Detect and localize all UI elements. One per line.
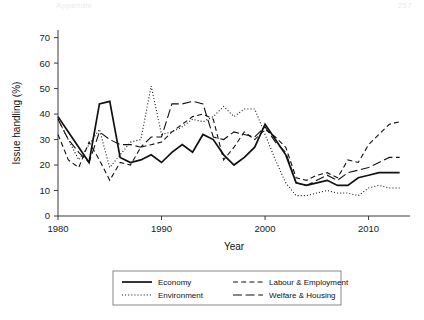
chart-legend: EconomyEnvironmentLabour & EmploymentWel… (113, 271, 349, 305)
y-tick-label: 30 (39, 134, 50, 145)
y-tick-label: 70 (39, 32, 50, 43)
legend-label: Labour & Employment (269, 278, 349, 287)
series-line-economy (58, 101, 400, 185)
series-line-labour-employment (58, 114, 400, 180)
line-chart: 0102030405060701980199020002010 YearIssu… (0, 0, 424, 320)
legend-label: Economy (158, 278, 191, 287)
legend-label: Welfare & Housing (269, 291, 336, 300)
x-tick-label: 2000 (254, 223, 275, 234)
x-tick-label: 2010 (358, 223, 379, 234)
x-tick-label: 1980 (47, 223, 68, 234)
x-tick-label: 1990 (151, 223, 172, 234)
series-group (58, 86, 400, 196)
series-line-welfare-housing (58, 101, 400, 185)
y-tick-label: 60 (39, 58, 50, 69)
y-tick-label: 10 (39, 185, 50, 196)
figure-root: Appendix 257 010203040506070198019902000… (0, 0, 424, 320)
x-axis-title: Year (224, 241, 245, 252)
legend-label: Environment (158, 291, 204, 300)
y-tick-label: 0 (45, 210, 50, 221)
y-tick-label: 40 (39, 108, 50, 119)
y-axis-title: Issue handling (%) (11, 82, 22, 165)
y-tick-label: 20 (39, 159, 50, 170)
y-tick-label: 50 (39, 83, 50, 94)
